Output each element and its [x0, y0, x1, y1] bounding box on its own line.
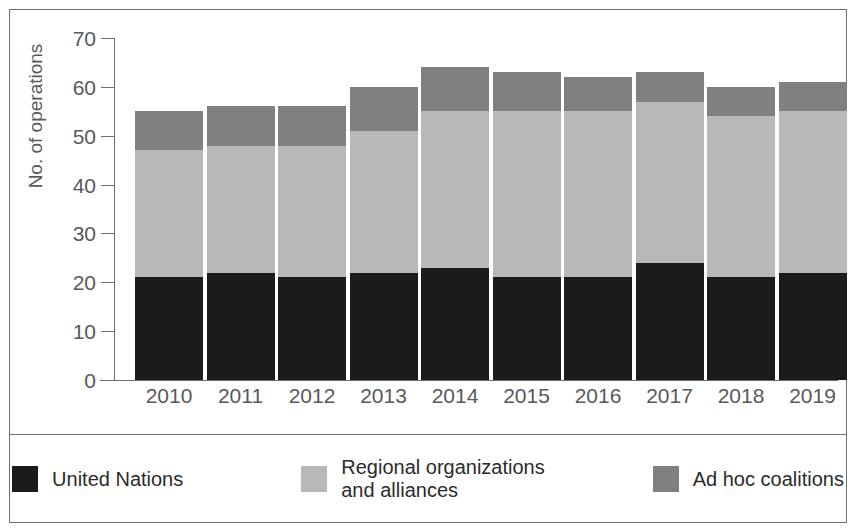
y-tick-label: 0	[50, 370, 96, 391]
y-tick-mark	[101, 331, 114, 332]
bar-series-container	[135, 38, 835, 380]
legend-label: Ad hoc coalitions	[693, 468, 844, 491]
legend-item[interactable]: Regional organizations and alliances	[301, 456, 544, 502]
x-tick-label: 2010	[135, 385, 203, 406]
x-tick-label: 2019	[779, 385, 847, 406]
legend-item[interactable]: Ad hoc coalitions	[653, 466, 844, 492]
y-tick-mark	[101, 38, 114, 39]
bar-segment-regional[interactable]	[564, 111, 632, 277]
bar-segment-regional[interactable]	[707, 116, 775, 277]
bar-segment-ad-hoc[interactable]	[421, 67, 489, 111]
y-axis-line	[114, 38, 115, 381]
bar-group[interactable]	[350, 38, 418, 380]
y-tick-mark	[101, 233, 114, 234]
y-tick-label: 40	[50, 174, 96, 195]
legend-label: Regional organizations and alliances	[341, 456, 544, 502]
legend-label: United Nations	[52, 468, 183, 491]
bar-group[interactable]	[493, 38, 561, 380]
bar-segment-ad-hoc[interactable]	[493, 72, 561, 111]
x-tick-label: 2012	[278, 385, 346, 406]
legend-swatch-icon	[301, 466, 327, 492]
bar-segment-regional[interactable]	[135, 150, 203, 277]
legend-swatch-icon	[653, 466, 679, 492]
bar-group[interactable]	[207, 38, 275, 380]
y-tick-mark	[101, 185, 114, 186]
bar-segment-united-nations[interactable]	[207, 273, 275, 380]
y-tick-label: 70	[50, 28, 96, 49]
bar-segment-ad-hoc[interactable]	[636, 72, 704, 101]
x-tick-label: 2018	[707, 385, 775, 406]
bar-segment-ad-hoc[interactable]	[278, 106, 346, 145]
bar-segment-united-nations[interactable]	[493, 277, 561, 380]
bar-segment-regional[interactable]	[350, 131, 418, 273]
bar-segment-regional[interactable]	[207, 146, 275, 273]
bar-segment-ad-hoc[interactable]	[564, 77, 632, 111]
plot-panel: No. of operations 010203040506070 201020…	[0, 0, 856, 434]
x-axis-line	[100, 380, 838, 381]
bar-group[interactable]	[564, 38, 632, 380]
bar-segment-united-nations[interactable]	[350, 273, 418, 380]
chart-legend: United NationsRegional organizations and…	[9, 435, 847, 523]
legend-swatch-icon	[12, 466, 38, 492]
bar-group[interactable]	[421, 38, 489, 380]
y-tick-label: 60	[50, 76, 96, 97]
y-tick-mark	[101, 282, 114, 283]
bar-segment-united-nations[interactable]	[421, 268, 489, 380]
x-tick-label: 2016	[564, 385, 632, 406]
bar-segment-ad-hoc[interactable]	[707, 87, 775, 116]
bar-group[interactable]	[636, 38, 704, 380]
bar-segment-united-nations[interactable]	[564, 277, 632, 380]
bar-group[interactable]	[707, 38, 775, 380]
bar-segment-united-nations[interactable]	[779, 273, 847, 380]
chart-figure: No. of operations 010203040506070 201020…	[0, 0, 856, 532]
bar-group[interactable]	[135, 38, 203, 380]
bar-segment-united-nations[interactable]	[707, 277, 775, 380]
y-axis-title: No. of operations	[25, 16, 47, 216]
bar-segment-regional[interactable]	[636, 102, 704, 263]
bar-group[interactable]	[278, 38, 346, 380]
x-tick-label: 2015	[493, 385, 561, 406]
x-tick-label: 2013	[350, 385, 418, 406]
bar-group[interactable]	[779, 38, 847, 380]
bar-segment-ad-hoc[interactable]	[135, 111, 203, 150]
bar-segment-ad-hoc[interactable]	[350, 87, 418, 131]
bar-segment-united-nations[interactable]	[135, 277, 203, 380]
bar-segment-united-nations[interactable]	[278, 277, 346, 380]
legend-item[interactable]: United Nations	[12, 466, 183, 492]
bar-segment-united-nations[interactable]	[636, 263, 704, 380]
y-tick-label: 30	[50, 223, 96, 244]
x-tick-label: 2011	[207, 385, 275, 406]
y-tick-mark	[101, 87, 114, 88]
x-tick-label: 2014	[421, 385, 489, 406]
bar-segment-regional[interactable]	[779, 111, 847, 272]
y-tick-mark	[101, 136, 114, 137]
y-tick-label: 50	[50, 125, 96, 146]
bar-segment-ad-hoc[interactable]	[779, 82, 847, 111]
x-tick-label: 2017	[636, 385, 704, 406]
y-tick-mark	[101, 380, 114, 381]
bar-segment-regional[interactable]	[493, 111, 561, 277]
y-tick-label: 20	[50, 272, 96, 293]
bar-segment-regional[interactable]	[421, 111, 489, 267]
bar-segment-ad-hoc[interactable]	[207, 106, 275, 145]
bar-segment-regional[interactable]	[278, 146, 346, 278]
y-tick-label: 10	[50, 321, 96, 342]
